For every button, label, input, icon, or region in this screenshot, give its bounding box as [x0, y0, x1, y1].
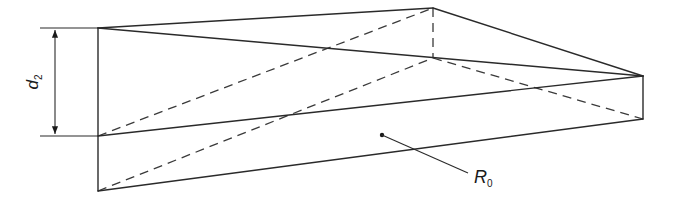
leader-line-R0 — [382, 135, 468, 173]
hidden-edge-CE — [98, 58, 433, 191]
svg-text:d2: d2 — [23, 74, 44, 89]
wedge-diagram: d2 R0 — [0, 0, 674, 199]
edge-AF — [98, 28, 643, 76]
dimension-label-d2: d2 — [23, 74, 44, 89]
edge-AD — [98, 8, 433, 28]
hidden-edge-BD — [98, 8, 433, 136]
edge-DF — [433, 8, 643, 76]
edge-BF — [98, 76, 643, 136]
edge-CG — [98, 119, 643, 191]
label-R0: R0 — [474, 167, 493, 189]
